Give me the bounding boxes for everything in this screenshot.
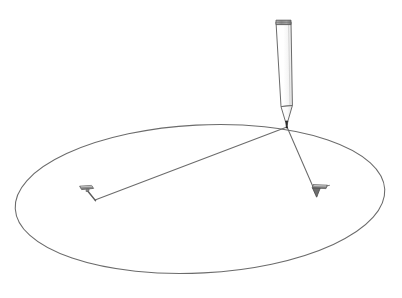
pencil-tip-contact-point [286,127,288,129]
string-left-line [95,127,287,200]
string-lines [95,127,317,200]
illustration-canvas [0,0,402,298]
pencil-cone [281,106,292,123]
pin-left [80,185,96,200]
pencil [276,20,292,128]
pin-right [312,185,330,198]
ellipse-curve [11,115,388,282]
ellipse-construction-diagram [0,0,402,298]
